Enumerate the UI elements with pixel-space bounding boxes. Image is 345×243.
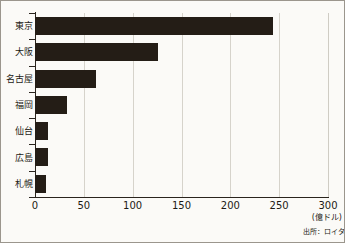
y-axis-tick [29, 39, 35, 40]
category-label-福岡: 福岡 [1, 100, 33, 110]
bar-札幌 [35, 175, 46, 193]
bar-仙台 [35, 122, 48, 140]
bar-row [35, 171, 328, 197]
y-axis-tick [29, 118, 35, 119]
bar-福岡 [35, 96, 67, 114]
source-annotation: 出所：ロイタ [303, 228, 345, 237]
x-tick-label-300: 300 [318, 200, 337, 212]
y-axis-tick [29, 171, 35, 172]
category-label-東京: 東京 [1, 21, 33, 31]
x-tick-label-150: 150 [172, 200, 191, 212]
bar-row [35, 92, 328, 118]
y-axis-tick [29, 13, 35, 14]
y-axis-tick [29, 66, 35, 67]
x-tick-label-100: 100 [123, 200, 142, 212]
bar-広島 [35, 148, 48, 166]
category-label-札幌: 札幌 [1, 179, 33, 189]
y-axis-tick [29, 197, 35, 198]
bar-名古屋 [35, 70, 96, 88]
bar-row [35, 66, 328, 92]
unit-annotation: (億ドル) [312, 213, 342, 223]
category-axis-labels: 東京大阪名古屋福岡仙台広島札幌 [1, 13, 33, 197]
x-axis-tick-labels: 050100150200250300 [1, 200, 345, 214]
bar-row [35, 13, 328, 39]
bar-東京 [35, 17, 273, 35]
x-tick-label-0: 0 [32, 200, 38, 212]
category-label-仙台: 仙台 [1, 126, 33, 136]
y-axis-tick [29, 144, 35, 145]
plot-area [35, 13, 328, 197]
gridline [328, 13, 329, 197]
bar-row [35, 118, 328, 144]
x-axis-line [35, 197, 329, 198]
bar-row [35, 144, 328, 170]
x-tick-label-50: 50 [77, 200, 90, 212]
x-tick-label-200: 200 [221, 200, 240, 212]
category-label-大阪: 大阪 [1, 47, 33, 57]
category-label-広島: 広島 [1, 153, 33, 163]
bar-大阪 [35, 43, 158, 61]
bar-row [35, 39, 328, 65]
category-label-名古屋: 名古屋 [1, 74, 33, 84]
y-axis-tick [29, 92, 35, 93]
x-tick-label-250: 250 [270, 200, 289, 212]
chart-figure: 東京大阪名古屋福岡仙台広島札幌 050100150200250300 (億ドル)… [0, 0, 345, 243]
